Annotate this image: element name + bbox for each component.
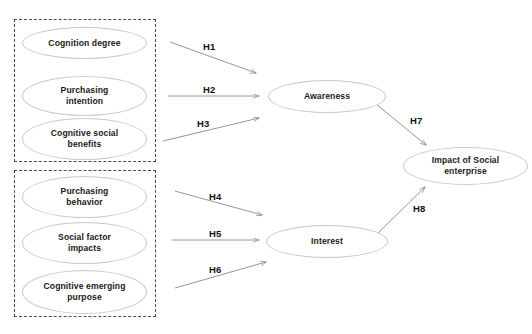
edge-label-h3: H3 (197, 118, 210, 129)
edge-label-text: H5 (209, 228, 222, 239)
edge-label-h6: H6 (209, 264, 222, 275)
edge-label-h1: H1 (203, 41, 216, 52)
edge-label-h7: H7 (410, 115, 423, 126)
node-cognition-degree[interactable]: Cognition degree (22, 27, 147, 59)
node-purchasing-intention[interactable]: Purchasing intention (22, 76, 147, 116)
edge-label-h8: H8 (413, 203, 426, 214)
edge-label-text: H1 (203, 41, 216, 52)
node-label: Purchasing intention (61, 85, 109, 106)
node-label: Cognition degree (48, 38, 120, 49)
edge-label-text: H6 (209, 264, 222, 275)
node-label: Impact of Social enterprise (432, 155, 500, 176)
node-label: Social factor impacts (58, 232, 111, 253)
edge-label-h2: H2 (203, 84, 216, 95)
node-label: Interest (311, 236, 343, 247)
node-awareness[interactable]: Awareness (268, 80, 386, 113)
node-label: Cognitive emerging purpose (43, 281, 125, 302)
edge-label-text: H4 (209, 191, 222, 202)
node-label: Cognitive social benefits (51, 128, 119, 149)
node-cognitive-emerging-purpose[interactable]: Cognitive emerging purpose (22, 270, 147, 314)
node-label: Purchasing behavior (61, 186, 109, 207)
edge-h3 (163, 118, 259, 141)
edge-label-text: H2 (203, 84, 216, 95)
edge-label-text: H3 (197, 118, 210, 129)
diagram-canvas: Cognition degree Purchasing intention Co… (0, 0, 532, 334)
node-impact-of-social-enterprise[interactable]: Impact of Social enterprise (403, 147, 528, 185)
edge-label-text: H7 (410, 115, 423, 126)
node-social-factor-impacts[interactable]: Social factor impacts (22, 222, 147, 264)
node-interest[interactable]: Interest (266, 225, 388, 258)
node-label: Awareness (304, 91, 350, 102)
edge-label-h5: H5 (209, 228, 222, 239)
edge-label-h4: H4 (209, 191, 222, 202)
edge-label-text: H8 (413, 203, 426, 214)
node-purchasing-behavior[interactable]: Purchasing behavior (22, 176, 147, 218)
node-cognitive-social-benefits[interactable]: Cognitive social benefits (22, 118, 147, 160)
